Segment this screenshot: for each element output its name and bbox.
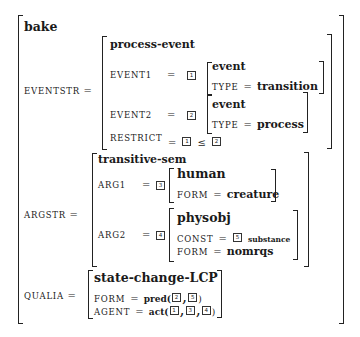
qualia-bracket-left [88,270,93,319]
event1-bracket-right [319,61,324,94]
event2-feature: TYPE = process [212,113,304,132]
qualia-label: QUALIA = [24,290,77,301]
arg1-type: human [177,166,226,181]
eventstr-type: process-event [110,38,195,51]
arg1-bracket-left [169,168,174,203]
arg2-eq: = [142,229,150,240]
qualia-type: state-change-LCP [94,270,218,285]
arg2-bracket-right [293,210,298,260]
event1-eq: = [167,69,175,80]
event1-tag: 1 [187,71,196,80]
arg1-tag: 3 [156,181,165,190]
arg2-bracket-left [169,208,174,262]
outer-bracket-left [18,15,23,324]
event2-type: event [212,98,245,111]
arg1-feature: FORM = creature [177,183,279,202]
event2-label: EVENT2 [110,110,152,120]
arg2-tag: 4 [156,231,165,240]
restrict-label: RESTRICT [110,133,162,143]
eventstr-bracket-left [102,36,107,150]
arg2-type: physobj [177,210,231,225]
restrict-value: = 1 ≤ 2 [168,131,222,150]
arg1-label: ARG1 [98,180,126,190]
arg2-form-feature: FORM = nomrqs [177,240,273,259]
arg1-eq: = [142,179,150,190]
argstr-label: ARGSTR = [24,209,79,220]
argstr-bracket-left [92,153,97,267]
event2-tag: 2 [187,111,196,120]
eventstr-label: EVENTSTR = [24,85,93,96]
qualia-agent: AGENT = act(1,3,4) [94,300,215,319]
event1-type: event [212,60,245,73]
eventstr-bracket-right [327,34,332,149]
event1-label: EVENT1 [110,70,152,80]
argstr-bracket-right [304,152,309,267]
arg2-label: ARG2 [98,230,126,240]
outer-bracket-right [339,15,344,324]
lexeme-head: bake [24,19,57,34]
event2-eq: = [167,109,175,120]
argstr-type: transitive-sem [98,153,186,166]
